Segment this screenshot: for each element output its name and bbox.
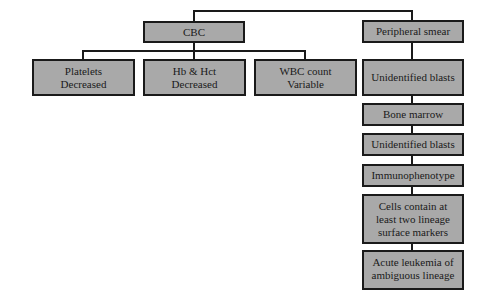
unidentified-blasts-box-1: Unidentified blasts — [362, 59, 464, 96]
acute-leukemia-line1: Acute leukemia of — [372, 256, 453, 269]
unidentified-blasts-label-1: Unidentified blasts — [371, 71, 454, 84]
lineage-markers-line2: least two lineage — [376, 213, 450, 226]
wbc-box: WBC count Variable — [254, 59, 357, 96]
wbc-status: Variable — [287, 78, 324, 91]
lineage-markers-box: Cells contain at least two lineage surfa… — [362, 194, 464, 244]
unidentified-blasts-box-2: Unidentified blasts — [362, 133, 464, 156]
immunophenotype-label: Immunophenotype — [371, 169, 454, 182]
bone-marrow-label: Bone marrow — [383, 108, 443, 121]
platelets-box: Platelets Decreased — [32, 59, 135, 96]
peripheral-smear-label: Peripheral smear — [376, 25, 450, 38]
cbc-box: CBC — [143, 21, 245, 43]
platelets-status: Decreased — [61, 78, 107, 91]
acute-leukemia-line2: ambiguous lineage — [372, 269, 455, 282]
hb-hct-status: Decreased — [172, 78, 218, 91]
immunophenotype-box: Immunophenotype — [362, 164, 464, 187]
bone-marrow-box: Bone marrow — [362, 103, 464, 126]
connector-cbc-children — [82, 50, 306, 52]
platelets-label: Platelets — [65, 65, 102, 78]
lineage-markers-line3: surface markers — [378, 226, 448, 239]
wbc-label: WBC count — [279, 65, 331, 78]
cbc-label: CBC — [183, 26, 205, 39]
lineage-markers-line1: Cells contain at — [379, 200, 447, 213]
hb-hct-box: Hb & Hct Decreased — [143, 59, 246, 96]
acute-leukemia-box: Acute leukemia of ambiguous lineage — [362, 250, 464, 290]
unidentified-blasts-label-2: Unidentified blasts — [371, 138, 454, 151]
peripheral-smear-box: Peripheral smear — [362, 20, 464, 43]
hb-hct-label: Hb & Hct — [173, 65, 216, 78]
connector-top — [193, 10, 413, 12]
